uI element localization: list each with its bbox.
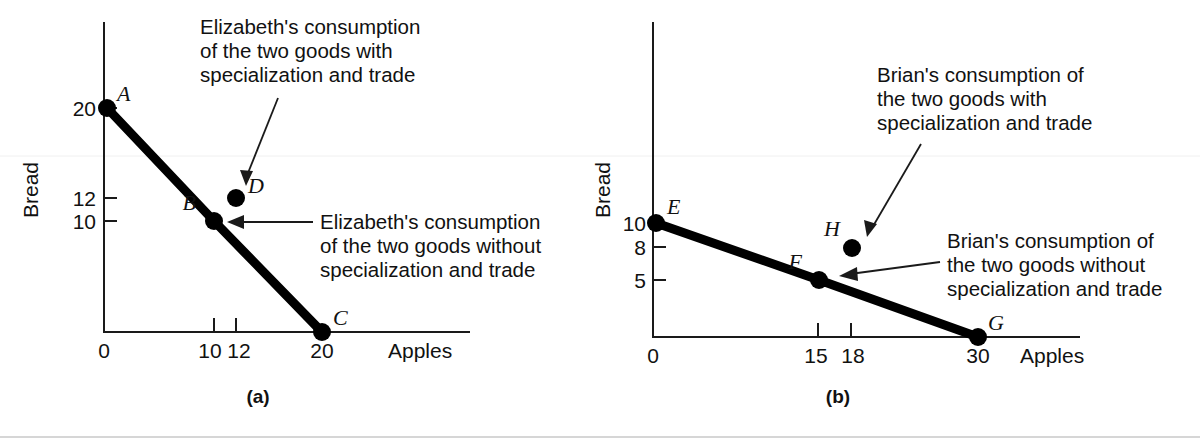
panel-b-point-label-H: H [823, 216, 841, 241]
panel-b-ytick-label-5: 5 [634, 269, 646, 292]
panel-a-ytick-label-10: 10 [73, 210, 96, 233]
panel-b-point-E [647, 214, 665, 232]
panel-b-annotation-without-trade: Brian's consumption of the two goods wit… [839, 229, 1162, 300]
panel-b-point-G [969, 328, 987, 346]
panel-b-point-label-G: G [988, 310, 1004, 335]
panel-a-annot2-arrowhead [227, 215, 244, 229]
panel-b-x-axis-title: Apples [1020, 344, 1084, 367]
panel-a-annot2-line1: Elizabeth's consumption [320, 210, 540, 233]
panel-b-ytick-label-8: 8 [634, 236, 646, 259]
panel-b-annot2-line2: the two goods without [947, 253, 1146, 276]
panel-a-xtick-label-10: 10 [198, 339, 221, 362]
panel-a-annot1-line3: specialization and trade [200, 63, 415, 86]
panel-b-annot1-line2: the two goods with [877, 87, 1047, 110]
panel-a: 20 12 10 0 10 12 20 Bread Apples A B C D… [19, 15, 541, 407]
panel-a-y-axis-title: Bread [19, 162, 42, 218]
panel-b-annot2-leader [850, 262, 940, 274]
panel-b-annot2-arrowhead [839, 267, 858, 281]
panel-a-point-B [205, 212, 223, 230]
panel-a-point-C [313, 323, 331, 341]
panel-a-xtick-label-20: 20 [310, 339, 333, 362]
panel-b-xtick-label-18: 18 [841, 344, 864, 367]
panel-a-ytick-label-12: 12 [73, 187, 96, 210]
panel-a-annot1-leader [246, 98, 278, 178]
panel-b-xtick-label-15: 15 [804, 344, 827, 367]
panel-a-annot1-line1: Elizabeth's consumption [200, 15, 420, 38]
panel-a-annot1-line2: of the two goods with [200, 39, 393, 62]
panel-b-point-F [810, 271, 828, 289]
panel-a-point-label-B: B [183, 190, 196, 215]
panel-b-xtick-label-30: 30 [966, 344, 989, 367]
panel-a-annot2-line3: specialization and trade [320, 258, 535, 281]
panel-a-annotation-without-trade: Elizabeth's consumption of the two goods… [227, 210, 541, 281]
panel-a-point-label-C: C [333, 305, 348, 330]
panel-a-point-label-A: A [115, 81, 131, 106]
panel-a-annot2-line2: of the two goods without [320, 234, 541, 257]
panel-a-x-axis-title: Apples [388, 339, 452, 362]
panel-b-y-axis-title: Bread [591, 162, 614, 218]
panel-b-origin-label: 0 [647, 344, 659, 367]
panel-a-xtick-label-12: 12 [227, 339, 250, 362]
panel-b-annot1-line3: specialization and trade [877, 111, 1092, 134]
panel-a-point-A [98, 99, 116, 117]
panel-a-annotation-with-trade: Elizabeth's consumption of the two goods… [200, 15, 420, 186]
panel-b-annot2-line3: specialization and trade [947, 277, 1162, 300]
panel-a-label: (a) [246, 386, 269, 407]
figure-canvas: 20 12 10 0 10 12 20 Bread Apples A B C D… [0, 0, 1200, 443]
panel-b-annot2-line1: Brian's consumption of [947, 229, 1154, 252]
panel-b-point-label-E: E [666, 194, 681, 219]
panel-a-origin-label: 0 [98, 339, 110, 362]
panel-b-label: (b) [826, 386, 850, 407]
panel-b-annot1-line1: Brian's consumption of [877, 63, 1084, 86]
panel-b-ytick-label-10: 10 [623, 212, 646, 235]
panel-a-point-D [227, 189, 245, 207]
panel-b-point-H [843, 239, 861, 257]
panel-b-point-label-F: F [788, 249, 803, 274]
panel-b: 10 8 5 0 15 18 30 Bread Apples E F G H B… [591, 22, 1162, 407]
panel-a-ytick-label-20: 20 [73, 97, 96, 120]
panel-b-annot1-leader [872, 144, 921, 228]
panel-b-annotation-with-trade: Brian's consumption of the two goods wit… [864, 63, 1092, 237]
economics-figure: 20 12 10 0 10 12 20 Bread Apples A B C D… [0, 0, 1200, 443]
